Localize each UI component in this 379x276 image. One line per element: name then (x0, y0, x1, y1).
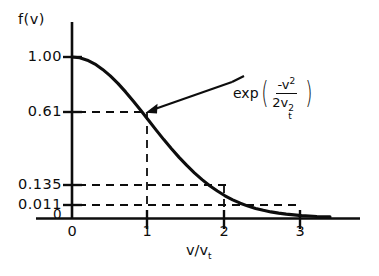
annotation-paren-open: ( (261, 81, 268, 106)
annotation-fraction: -v2 2v 2 t (270, 76, 302, 110)
annotation-exp-text: exp (233, 85, 259, 101)
x-tick-label-3: 3 (287, 224, 313, 239)
y-tick-label-0.135: 0.135 (3, 177, 62, 192)
annotation-formula: exp ( -v2 2v 2 t ) (233, 76, 314, 110)
figure-canvas: f(v) 1.00 0.61 0.135 0.011 0 0 1 2 3 v/v… (0, 0, 379, 276)
annotation-paren-close: ) (305, 81, 312, 106)
x-axis-label-subscript: t (208, 251, 212, 261)
x-tick-label-0: 0 (59, 224, 85, 239)
annotation-denominator-subscript: t (288, 111, 292, 121)
plot-svg (0, 0, 379, 276)
annotation-denominator-base: 2v (272, 95, 288, 110)
annotation-arrowhead (146, 104, 158, 114)
annotation-numerator-exponent: 2 (290, 76, 296, 86)
x-axis-label-main: v/v (186, 242, 208, 258)
y-tick-label-1.00: 1.00 (8, 49, 62, 64)
annotation-denominator: 2v 2 t (270, 94, 302, 110)
x-axis-label: v/vt (186, 243, 212, 261)
annotation-numerator-base: -v (278, 77, 290, 92)
x-tick-label-2: 2 (211, 224, 237, 239)
annotation-leader-line (152, 82, 232, 110)
x-tick-label-1: 1 (134, 224, 160, 239)
y-tick-label-0: 0 (3, 208, 62, 222)
y-tick-label-0.61: 0.61 (8, 104, 62, 119)
y-axis-label: f(v) (18, 12, 45, 27)
annotation-numerator: -v2 (276, 76, 298, 94)
